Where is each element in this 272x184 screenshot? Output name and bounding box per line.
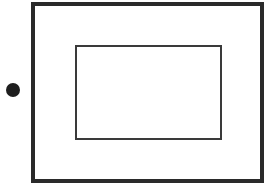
dot-marker bbox=[6, 83, 20, 97]
inner-rectangle bbox=[75, 45, 222, 140]
